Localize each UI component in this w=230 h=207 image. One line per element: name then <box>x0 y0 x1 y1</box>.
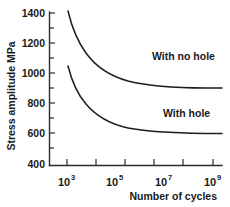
y-axis-title: Stress amplitude MPa <box>5 41 17 150</box>
curve-with-hole <box>68 66 222 134</box>
x-tick-label-1e7-exponent: 7 <box>168 173 172 182</box>
series-label-with-hole: With hole <box>163 107 210 119</box>
chart-canvas: Stress amplitude MPa 1400 1200 1000 800 … <box>0 0 230 207</box>
fatigue-sn-chart-figure: Stress amplitude MPa 1400 1200 1000 800 … <box>0 0 230 207</box>
x-tick-label-1e7-base: 10 <box>155 176 167 188</box>
x-tick-label-1e9-exponent: 9 <box>217 173 221 182</box>
y-tick-label-1200: 1200 <box>22 37 46 49</box>
x-axis-title: Number of cycles <box>129 190 217 202</box>
y-tick-label-1000: 1000 <box>22 67 46 79</box>
y-tick-label-800: 800 <box>27 97 45 109</box>
x-tick-label-1e3-exponent: 3 <box>71 173 75 182</box>
x-tick-label-1e5-exponent: 5 <box>119 173 123 182</box>
x-tick-label-1e9-base: 10 <box>204 176 216 188</box>
x-tick-label-1e5-base: 10 <box>106 176 118 188</box>
y-tick-label-400: 400 <box>27 158 45 170</box>
y-tick-label-600: 600 <box>27 127 45 139</box>
series-label-with-no-hole: With no hole <box>152 50 215 62</box>
y-tick-label-1400: 1400 <box>22 7 46 19</box>
x-tick-label-1e3-base: 10 <box>58 176 70 188</box>
